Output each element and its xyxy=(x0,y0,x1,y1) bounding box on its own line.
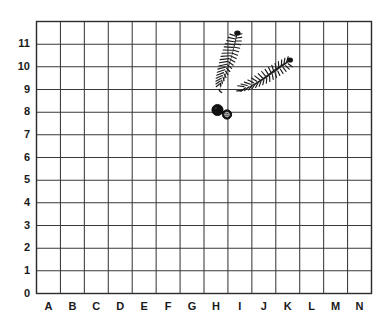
y-axis-tick-label: 9 xyxy=(12,84,30,95)
x-axis-tick-label: J xyxy=(254,301,274,312)
x-axis-tick-label: A xyxy=(38,301,58,312)
x-axis-tick-label: B xyxy=(62,301,82,312)
grid-lines xyxy=(0,0,384,321)
x-axis-tick-label: D xyxy=(110,301,130,312)
y-axis-tick-label: 10 xyxy=(12,61,30,72)
x-axis-tick-label: G xyxy=(182,301,202,312)
x-axis-tick-label: H xyxy=(206,301,226,312)
x-axis-tick-label: F xyxy=(158,301,178,312)
y-axis-tick-label: 5 xyxy=(12,174,30,185)
x-axis-tick-label: C xyxy=(86,301,106,312)
y-axis-tick-label: 4 xyxy=(12,197,30,208)
y-axis-tick-label: 6 xyxy=(12,152,30,163)
x-axis-tick-label: N xyxy=(350,301,370,312)
excavation-grid-plot: 01234567891011 ABCDEFGHIJKLMN xyxy=(0,0,384,321)
y-axis-tick-label: 8 xyxy=(12,106,30,117)
y-axis-tick-label: 11 xyxy=(12,38,30,49)
y-axis-tick-label: 2 xyxy=(12,242,30,253)
x-axis-tick-label: K xyxy=(278,301,298,312)
y-axis-tick-label: 7 xyxy=(12,129,30,140)
y-axis-tick-label: 0 xyxy=(12,288,30,299)
x-axis-tick-label: M xyxy=(326,301,346,312)
y-axis-tick-label: 1 xyxy=(12,265,30,276)
x-axis-tick-label: E xyxy=(134,301,154,312)
x-axis-tick-label: I xyxy=(230,301,250,312)
y-axis-tick-label: 3 xyxy=(12,220,30,231)
x-axis-tick-label: L xyxy=(302,301,322,312)
